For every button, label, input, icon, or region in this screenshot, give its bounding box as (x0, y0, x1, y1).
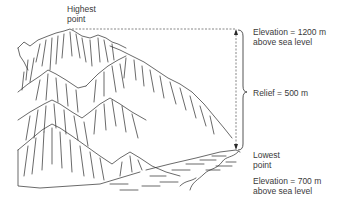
highest-point-label: Highest point (67, 4, 96, 24)
vertical-arrow (234, 29, 238, 35)
highest-point-line2: point (67, 14, 96, 24)
relief-diagram: Highest point Elevation = 1200 m above s… (0, 0, 357, 207)
relief-value: Relief = 500 m (253, 88, 308, 98)
top-elevation-line2: above sea level (253, 37, 326, 47)
lowest-point-line2: point (253, 160, 280, 170)
lowest-point-label: Lowest point (253, 150, 280, 170)
curly-brace (238, 30, 247, 150)
highest-point-line1: Highest (67, 4, 96, 14)
bottom-elevation-line1: Elevation = 700 m (253, 176, 321, 186)
top-elevation-label: Elevation = 1200 m above sea level (253, 27, 326, 47)
bottom-elevation-label: Elevation = 700 m above sea level (253, 176, 321, 196)
lowest-point-line1: Lowest (253, 150, 280, 160)
relief-label: Relief = 500 m (253, 88, 308, 98)
bottom-elevation-line2: above sea level (253, 186, 321, 196)
top-elevation-line1: Elevation = 1200 m (253, 27, 326, 37)
